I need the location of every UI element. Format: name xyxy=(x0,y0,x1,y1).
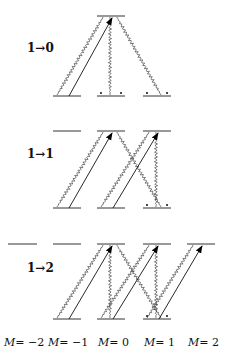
spontaneous-decay-wave xyxy=(117,17,161,95)
transition-label: 1→1 xyxy=(27,147,54,161)
transition-label: 1→0 xyxy=(27,41,54,55)
laser-excitation-arrow xyxy=(69,133,112,208)
spontaneous-decay-wave xyxy=(101,132,149,207)
spontaneous-decay-wave xyxy=(154,132,157,207)
spontaneous-decay-wave xyxy=(57,17,103,95)
dark-state-dot xyxy=(146,315,148,317)
dark-state-dot xyxy=(166,92,168,94)
m-sublevel-label: M= 1 xyxy=(143,336,175,349)
panel-1-to-2: 1→2 xyxy=(8,244,215,319)
laser-excitation-arrow xyxy=(159,246,202,319)
dark-state-dot xyxy=(166,315,168,317)
m-sublevel-label: M= −1 xyxy=(47,336,88,349)
m-sublevel-label: M= 0 xyxy=(97,336,129,349)
transition-panels: 1→01→11→2 xyxy=(8,16,215,319)
m-sublevel-label: M= 2 xyxy=(187,336,219,349)
energy-level-diagram: 1→01→11→2 M= −2M= −1M= 0M= 1M= 2 xyxy=(0,0,227,356)
spontaneous-decay-wave xyxy=(101,245,149,318)
m-sublevel-labels: M= −2M= −1M= 0M= 1M= 2 xyxy=(3,336,219,349)
dark-state-dot xyxy=(146,204,148,206)
transition-label: 1→2 xyxy=(27,261,54,275)
panel-1-to-1: 1→1 xyxy=(27,131,171,208)
m-sublevel-label: M= −2 xyxy=(3,336,44,349)
spontaneous-decay-wave xyxy=(108,17,111,95)
laser-excitation-arrow xyxy=(113,133,158,208)
dark-state-dot xyxy=(120,92,122,94)
panel-1-to-0: 1→0 xyxy=(27,16,171,96)
dark-state-dot xyxy=(100,92,102,94)
dark-state-dot xyxy=(146,92,148,94)
laser-excitation-arrow xyxy=(69,18,112,96)
dark-state-dot xyxy=(166,204,168,206)
spontaneous-decay-wave xyxy=(57,132,103,207)
laser-excitation-arrow xyxy=(113,246,158,319)
spontaneous-decay-wave xyxy=(147,245,193,318)
laser-excitation-arrow xyxy=(69,246,112,319)
spontaneous-decay-wave xyxy=(57,245,103,318)
